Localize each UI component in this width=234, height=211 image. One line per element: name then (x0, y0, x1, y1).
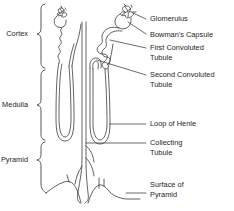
duct-branch-lower-right (86, 158, 94, 176)
part-label-collecting-tubule-line2: Tubule (150, 148, 172, 157)
nephron-diagram-canvas: Cortex Medulla Pyramid (0, 0, 234, 211)
papillary-duct-3 (67, 175, 69, 182)
part-label-second-convoluted-tubule-line2: Tubule (150, 80, 172, 89)
brace-medulla (37, 70, 45, 140)
bowmans-capsule-left (54, 16, 66, 28)
pyramid-surface-right (88, 185, 140, 203)
glomerulus-left-icon (57, 6, 67, 17)
part-label-loop-of-henle: Loop of Henle (150, 119, 196, 128)
part-label-surface-of-pyramid-line1: Surface of (150, 180, 185, 189)
part-label-bowmans-capsule: Bowman's Capsule (150, 30, 213, 39)
bowmans-capsule-right (115, 14, 131, 29)
part-label-first-convoluted-tubule-line1: First Convoluted (150, 43, 204, 52)
leader-glomerulus (133, 13, 146, 19)
part-labels: Glomerulus Bowman's Capsule First Convol… (150, 14, 215, 199)
region-label-medulla: Medulla (2, 100, 29, 109)
region-label-pyramid: Pyramid (1, 155, 28, 164)
region-label-cortex: Cortex (6, 29, 28, 38)
loop-of-henle-right-inner (93, 69, 107, 140)
part-label-second-convoluted-tubule-line1: Second Convoluted (150, 70, 215, 79)
first-convoluted-tubule-right (97, 27, 119, 69)
part-label-surface-of-pyramid-line2: Pyramid (150, 190, 177, 199)
leader-bowmans-capsule (128, 22, 146, 34)
glomerulus-right-icon (121, 4, 136, 18)
second-convoluted-tubule-left-b (69, 44, 74, 66)
nephron-diagram: Cortex Medulla Pyramid (0, 0, 234, 211)
leader-first-convoluted-tubule (110, 40, 146, 48)
nephron-right-group (90, 4, 136, 144)
brace-cortex (37, 4, 45, 68)
collecting-duct-left-wall (77, 22, 82, 203)
leader-second-convoluted-tubule (97, 60, 146, 75)
part-label-glomerulus: Glomerulus (150, 14, 188, 23)
first-convoluted-tubule-right-b (102, 31, 122, 65)
region-brace-group (37, 4, 46, 193)
part-label-collecting-tubule-line1: Collecting (150, 138, 182, 147)
part-label-first-convoluted-tubule-line2: Tubule (150, 53, 172, 62)
pyramid-surface-left (46, 181, 81, 203)
first-convoluted-tubule-left (58, 28, 62, 63)
collecting-duct-group (75, 22, 94, 203)
loop-of-henle-left-inner (59, 64, 71, 137)
region-labels: Cortex Medulla Pyramid (1, 29, 29, 164)
loop-of-henle-left-outer (56, 63, 74, 141)
brace-pyramid (37, 142, 46, 193)
second-convoluted-tubule-right-b (93, 61, 99, 69)
second-convoluted-tubule-right (90, 58, 101, 68)
pyramid-surface-group (46, 175, 140, 203)
collecting-duct-right-wall (85, 22, 88, 203)
leader-lines-group (86, 13, 146, 193)
nephron-left-group (54, 6, 81, 141)
